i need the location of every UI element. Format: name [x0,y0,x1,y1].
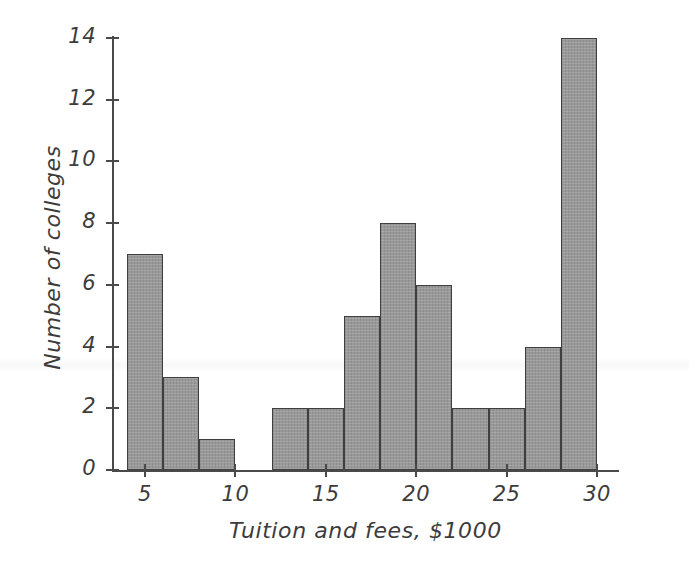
y-axis-tick [106,222,119,224]
histogram-bar [163,377,199,470]
histogram-bar [199,439,235,470]
x-axis-title: Tuition and fees, $1000 [112,518,619,543]
x-axis-tick [144,464,146,477]
histogram-bar [416,285,452,470]
x-axis-tick [234,464,236,477]
y-axis-tick [106,99,119,101]
y-axis-tick-label: 2 [56,394,96,418]
y-axis-tick-label: 14 [56,24,96,48]
x-axis-tick [415,464,417,477]
x-axis-line [112,470,619,472]
x-axis-tick [596,464,598,477]
y-axis-tick-label: 0 [56,456,96,480]
y-axis-tick [106,160,119,162]
x-axis-tick-label: 5 [123,482,167,506]
y-axis-tick-label: 12 [56,86,96,110]
y-axis-tick [106,284,119,286]
x-axis-tick-label: 10 [213,482,257,506]
histogram-bar [452,408,488,470]
histogram-bar [489,408,525,470]
y-axis-tick [106,469,119,471]
histogram-bar [127,254,163,470]
histogram-bar [344,316,380,470]
x-axis-tick [325,464,327,477]
y-axis-tick [106,407,119,409]
x-axis-tick-label: 25 [485,482,529,506]
histogram-bar [308,408,344,470]
x-axis-tick-label: 15 [304,482,348,506]
histogram-bar [561,38,597,470]
x-axis-tick-label: 20 [394,482,438,506]
histogram-figure: 02468101214 51015202530 Number of colleg… [0,0,689,573]
x-axis-tick [506,464,508,477]
y-axis-title: Number of colleges [40,128,65,388]
plot-area: 02468101214 51015202530 Number of colleg… [0,0,689,573]
histogram-bar [272,408,308,470]
y-axis-tick [106,346,119,348]
x-axis-tick-label: 30 [575,482,619,506]
histogram-bar [380,223,416,470]
histogram-bar [525,347,561,470]
y-axis-tick [106,37,119,39]
